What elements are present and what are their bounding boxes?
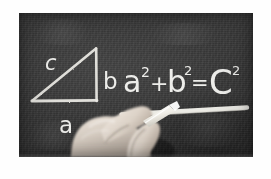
- triangle-label-b: b: [103, 68, 118, 94]
- triangle-base-leg: [32, 100, 97, 101]
- equation-operator-equals: =: [191, 71, 209, 95]
- chalk-artwork: c b a a 2 + b 2 = C 2: [19, 13, 253, 157]
- equation-term-c-base: C: [209, 62, 233, 102]
- page-canvas: c b a a 2 + b 2 = C 2: [0, 0, 271, 179]
- equation-operator-plus: +: [150, 71, 168, 96]
- blackboard-photo: c b a a 2 + b 2 = C 2: [19, 13, 253, 157]
- equation-term-a-base: a: [123, 64, 141, 99]
- hand-holding-chalk: [71, 101, 180, 157]
- triangle-label-c: c: [45, 51, 57, 75]
- triangle-hypotenuse: [33, 49, 97, 101]
- triangle-label-a: a: [59, 112, 73, 138]
- equation-term-a-exponent: 2: [141, 64, 150, 80]
- equation-group: a 2 + b 2 = C 2: [123, 62, 240, 102]
- triangle-figure: [32, 49, 97, 102]
- equation-term-c-exponent: 2: [232, 63, 240, 78]
